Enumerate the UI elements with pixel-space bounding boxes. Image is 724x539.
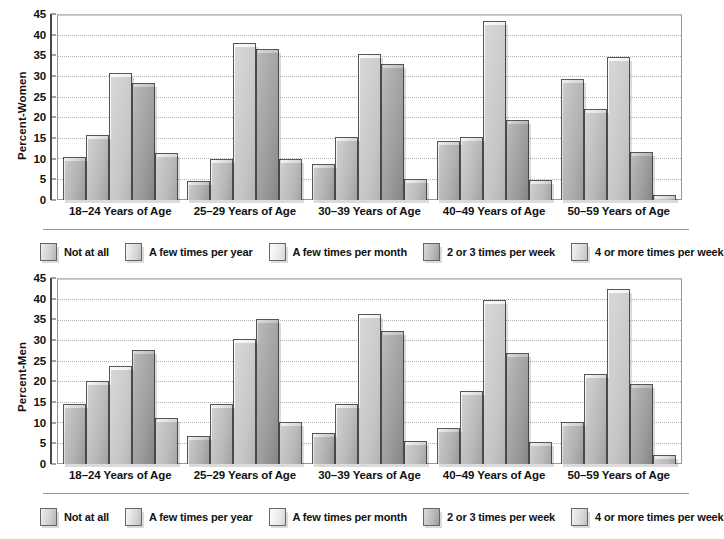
bar[interactable] <box>187 181 210 200</box>
category-label: 18–24 Years of Age <box>58 205 183 217</box>
bar[interactable] <box>607 57 630 200</box>
bar[interactable] <box>483 21 506 200</box>
y-tick-mark <box>51 34 56 35</box>
bar[interactable] <box>335 137 358 200</box>
category-labels-women: 18–24 Years of Age25–29 Years of Age30–3… <box>58 205 681 217</box>
legend-item[interactable]: 4 or more times per week <box>571 243 723 261</box>
legend-item[interactable]: A few times per month <box>269 508 407 526</box>
bar[interactable] <box>86 381 109 464</box>
bar[interactable] <box>312 433 335 464</box>
bar[interactable] <box>335 404 358 464</box>
bar[interactable] <box>109 73 132 200</box>
y-tick-mark <box>51 319 56 320</box>
bar[interactable] <box>653 195 676 200</box>
bar[interactable] <box>506 120 529 200</box>
y-tick-mark <box>51 76 56 77</box>
legend-item[interactable]: A few times per year <box>125 243 253 261</box>
legend-swatch-icon <box>40 243 57 261</box>
legend-item[interactable]: 4 or more times per week <box>571 508 723 526</box>
bar-groups-men <box>58 279 681 464</box>
bar[interactable] <box>653 455 676 464</box>
bar[interactable] <box>210 159 233 200</box>
bar[interactable] <box>584 374 607 464</box>
bar[interactable] <box>506 353 529 464</box>
bar[interactable] <box>381 331 404 464</box>
bar[interactable] <box>381 64 404 200</box>
bar[interactable] <box>312 164 335 200</box>
category-label: 30–39 Years of Age <box>307 469 432 481</box>
bar[interactable] <box>607 289 630 464</box>
y-tick-mark <box>51 402 56 403</box>
legend-swatch-icon <box>423 243 440 261</box>
bar-group <box>556 279 681 464</box>
y-tick-label: 10 <box>34 153 52 165</box>
legend-item[interactable]: Not at all <box>40 243 109 261</box>
y-tick-label: 35 <box>34 313 52 325</box>
bar[interactable] <box>155 418 178 464</box>
bar[interactable] <box>483 300 506 464</box>
legend-swatch-icon <box>40 508 57 526</box>
legend-label: A few times per month <box>293 511 407 523</box>
bar[interactable] <box>155 153 178 200</box>
category-label: 18–24 Years of Age <box>58 469 183 481</box>
y-axis-title-men: Percent-Men <box>16 342 28 412</box>
legend-label: Not at all <box>64 511 109 523</box>
bar[interactable] <box>404 179 427 200</box>
bar[interactable] <box>584 109 607 200</box>
category-labels-men: 18–24 Years of Age25–29 Years of Age30–3… <box>58 469 681 481</box>
legend-swatch-icon <box>571 508 588 526</box>
category-label: 30–39 Years of Age <box>307 205 432 217</box>
bar[interactable] <box>63 157 86 200</box>
category-label: 40–49 Years of Age <box>432 469 557 481</box>
legend-label: 4 or more times per week <box>595 511 723 523</box>
legend-label: A few times per month <box>293 246 407 258</box>
bar[interactable] <box>86 135 109 200</box>
legend-item[interactable]: A few times per year <box>125 508 253 526</box>
bar[interactable] <box>109 366 132 464</box>
bar[interactable] <box>561 79 584 200</box>
bar[interactable] <box>187 436 210 464</box>
category-label: 25–29 Years of Age <box>183 469 308 481</box>
bar[interactable] <box>437 141 460 200</box>
y-tick-label: 30 <box>34 70 52 82</box>
bar[interactable] <box>210 404 233 464</box>
y-tick-mark <box>51 179 56 180</box>
bar[interactable] <box>256 49 279 200</box>
bar[interactable] <box>132 83 155 200</box>
y-tick-label: 25 <box>34 355 52 367</box>
bar-group <box>307 279 432 464</box>
bar[interactable] <box>529 180 552 200</box>
bar[interactable] <box>256 319 279 464</box>
y-tick-mark <box>51 138 56 139</box>
bar[interactable] <box>279 159 302 200</box>
bar-group <box>307 15 432 200</box>
bar[interactable] <box>233 339 256 464</box>
legend-item[interactable]: A few times per month <box>269 243 407 261</box>
bar[interactable] <box>460 391 483 464</box>
bar[interactable] <box>630 152 653 201</box>
legend-label: A few times per year <box>149 246 253 258</box>
bar[interactable] <box>630 384 653 464</box>
legend-item[interactable]: Not at all <box>40 508 109 526</box>
legend-swatch-icon <box>125 243 142 261</box>
bar[interactable] <box>63 404 86 464</box>
y-tick-label: 30 <box>34 334 52 346</box>
bar[interactable] <box>358 54 381 200</box>
bar-group <box>58 279 183 464</box>
legend-item[interactable]: 2 or 3 times per week <box>423 243 555 261</box>
bar-group <box>556 15 681 200</box>
y-axis-title-women: Percent-Women <box>16 71 28 160</box>
bar[interactable] <box>529 442 552 464</box>
bar[interactable] <box>404 441 427 464</box>
bar[interactable] <box>132 350 155 464</box>
legend-item[interactable]: 2 or 3 times per week <box>423 508 555 526</box>
bar[interactable] <box>233 43 256 200</box>
bar[interactable] <box>358 314 381 464</box>
legend-label: Not at all <box>64 246 109 258</box>
bar[interactable] <box>437 428 460 464</box>
bar[interactable] <box>460 137 483 200</box>
bar[interactable] <box>561 422 584 464</box>
y-tick-mark <box>51 360 56 361</box>
bar[interactable] <box>279 422 302 464</box>
y-tick-label: 25 <box>34 91 52 103</box>
